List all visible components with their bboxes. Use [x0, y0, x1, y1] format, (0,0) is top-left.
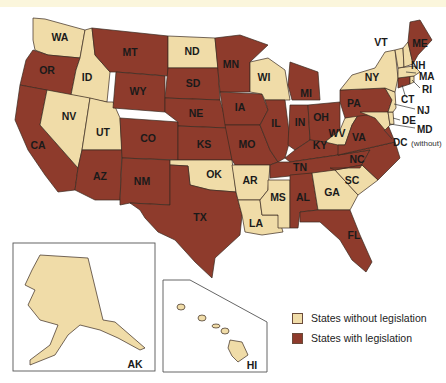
label-AL: AL	[296, 191, 311, 203]
legend-label-without: States without legislation	[311, 312, 427, 324]
label-IN: IN	[295, 116, 306, 128]
leader-DE	[393, 118, 400, 120]
label-OK: OK	[206, 168, 222, 180]
legend-item-with: States with legislation	[292, 328, 427, 348]
label-NV: NV	[62, 110, 77, 122]
label-RI: RI	[422, 84, 432, 95]
label-NC: NC	[349, 153, 365, 165]
legend-label-with: States with legislation	[311, 332, 412, 344]
state-FL[interactable]	[300, 210, 372, 272]
label-VT: VT	[374, 36, 388, 48]
label-MS: MS	[270, 191, 286, 203]
label-NH: NH	[411, 60, 425, 71]
label-CT: CT	[401, 94, 414, 105]
label-AK: AK	[127, 358, 143, 370]
label-KY: KY	[313, 139, 328, 151]
label-SC: SC	[345, 174, 360, 186]
label-MD: MD	[417, 124, 433, 135]
label-TX: TX	[193, 211, 206, 223]
legend-item-without: States without legislation	[292, 308, 427, 328]
label-CA: CA	[30, 139, 46, 151]
legend-swatch-with	[292, 333, 303, 344]
label-UT: UT	[96, 126, 111, 138]
label-ID: ID	[82, 71, 93, 83]
label-WI: WI	[258, 71, 271, 83]
label-OR: OR	[39, 64, 55, 76]
label-MI: MI	[300, 87, 312, 99]
label-IL: IL	[271, 117, 281, 129]
label-SD: SD	[186, 77, 201, 89]
label-MT: MT	[122, 46, 138, 58]
label-OH: OH	[313, 111, 329, 123]
label-AZ: AZ	[93, 170, 108, 182]
label-CO: CO	[140, 132, 156, 144]
label-DE: DE	[402, 115, 416, 126]
label-NY: NY	[365, 71, 380, 83]
label-PA: PA	[347, 97, 361, 109]
label-WA: WA	[52, 31, 69, 43]
label-ME: ME	[412, 37, 428, 49]
label-VA: VA	[352, 131, 366, 143]
label-DC-note: (without)	[411, 139, 442, 148]
label-MN: MN	[223, 58, 239, 70]
label-NE: NE	[189, 107, 204, 119]
label-AR: AR	[242, 174, 258, 186]
label-MA: MA	[419, 71, 435, 82]
label-DC: DC	[393, 137, 407, 148]
label-WY: WY	[130, 85, 147, 97]
legend-swatch-without	[292, 313, 303, 324]
label-ND: ND	[184, 45, 200, 57]
label-HI: HI	[247, 359, 258, 371]
label-IA: IA	[235, 101, 246, 113]
label-NJ: NJ	[417, 105, 430, 116]
label-WV: WV	[329, 127, 346, 139]
label-LA: LA	[249, 217, 263, 229]
label-TN: TN	[293, 161, 307, 173]
legend: States without legislation States with l…	[292, 308, 427, 348]
label-KS: KS	[197, 138, 212, 150]
label-MO: MO	[239, 138, 256, 150]
label-GA: GA	[324, 186, 340, 198]
leader-NJ	[394, 104, 415, 109]
label-NM: NM	[134, 175, 151, 187]
label-FL: FL	[348, 229, 361, 241]
